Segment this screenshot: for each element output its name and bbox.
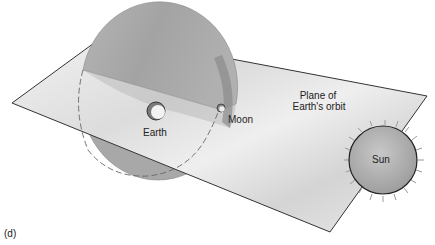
moon-orbit-diagram <box>0 0 435 245</box>
sun-label: Sun <box>372 154 390 165</box>
earth-icon <box>147 102 165 120</box>
earth-label: Earth <box>143 127 167 138</box>
moon-label: Moon <box>228 114 253 125</box>
plane-label-line1: Plane of <box>288 90 348 101</box>
moon-icon <box>217 104 225 112</box>
panel-label: (d) <box>4 228 16 239</box>
plane-label-line2: Earth's orbit <box>287 101 351 112</box>
